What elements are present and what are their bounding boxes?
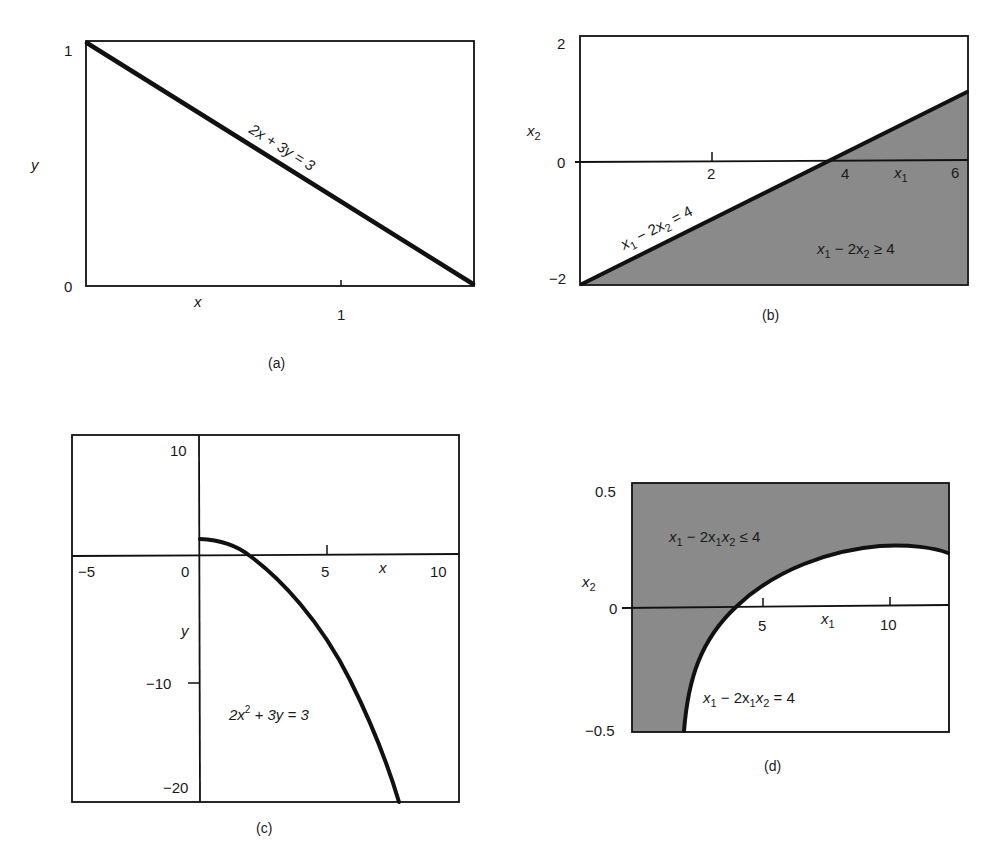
x-tick-label-minus-5: −5 — [78, 563, 95, 580]
figure: 1 0 1 x y 2x + 3y = 3 (a) 2 0 −2 2 4 6 x… — [0, 0, 984, 858]
caption-b: (b) — [762, 307, 779, 323]
y-tick-label-0.5: 0.5 — [595, 483, 616, 500]
y-tick-label-0: 0 — [64, 278, 72, 295]
y-tick-label-minus-0.5: −0.5 — [585, 722, 615, 739]
y-tick-label-minus-2: −2 — [549, 270, 566, 287]
y-tick-label-10: 10 — [170, 442, 187, 459]
x-tick-label-5: 5 — [321, 563, 329, 580]
x-tick-label-5: 5 — [758, 617, 766, 634]
x-tick-label-10: 10 — [880, 616, 897, 633]
x-axis-label: x — [193, 293, 202, 310]
y-tick-label-minus-20: −20 — [163, 779, 188, 796]
y-axis-label: x2 — [581, 573, 596, 593]
y-tick-label-0: 0 — [557, 154, 565, 171]
y-tick-label-0: 0 — [609, 600, 617, 617]
caption-c: (c) — [256, 820, 272, 836]
x-tick-label-1: 1 — [337, 306, 345, 323]
y-tick-label-2: 2 — [557, 35, 565, 52]
panel-a: 1 0 1 x y 2x + 3y = 3 (a) — [30, 41, 474, 371]
y-tick-label-1: 1 — [64, 42, 72, 59]
x-tick-label-0: 0 — [181, 563, 189, 580]
panel-b: 2 0 −2 2 4 6 x1 x2 x1 − 2x2 = 4 x1 − 2x2… — [526, 35, 968, 323]
panel-d: 0.5 0 −0.5 5 10 x1 x2 x1 − 2x1x2 ≤ 4 x1 … — [581, 483, 949, 774]
y-axis — [199, 435, 200, 802]
y-axis-label: x2 — [526, 122, 541, 142]
x-tick-label-10: 10 — [430, 563, 447, 580]
x-axis-label: x — [378, 559, 387, 576]
caption-d: (d) — [764, 758, 781, 774]
y-tick-label-minus-10: −10 — [146, 675, 171, 692]
plot-frame — [72, 435, 459, 802]
x-tick-label-2: 2 — [707, 165, 715, 182]
x-tick-label-6: 6 — [951, 164, 959, 181]
y-axis-label: y — [30, 156, 40, 173]
x-tick-label-4: 4 — [841, 165, 849, 182]
equation-label: 2x2 + 3y = 3 — [228, 704, 309, 723]
caption-a: (a) — [268, 355, 285, 371]
panel-c: 10 −10 −20 −5 0 5 10 x y 2x2 + 3y = 3 (c… — [72, 435, 459, 836]
